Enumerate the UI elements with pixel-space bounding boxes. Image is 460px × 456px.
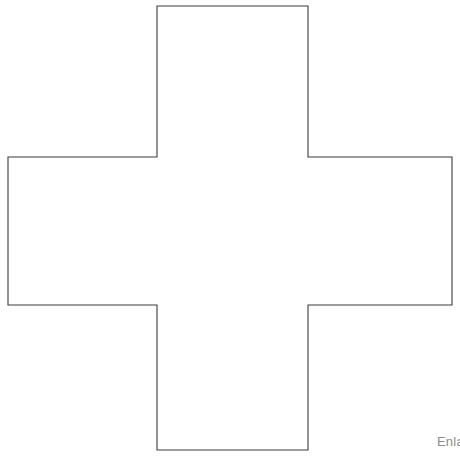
cross-shape-svg <box>0 0 460 456</box>
greek-cross-outline <box>8 6 452 450</box>
drawing-canvas: Enla <box>0 0 460 456</box>
enlarge-caption-label: Enla <box>437 433 460 450</box>
